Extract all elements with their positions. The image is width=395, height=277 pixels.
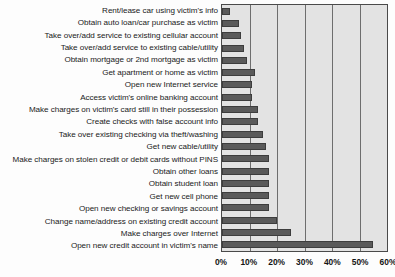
plot-area [221,4,388,252]
bar [222,217,277,224]
category-label: Rent/lease car using victim's info [0,4,221,16]
bar-row [222,226,387,238]
value-tick-label: 10% [240,257,257,267]
bar [222,106,258,113]
value-tick-label: 20% [268,257,285,267]
value-tick-label: 50% [352,257,369,267]
bar [222,155,269,162]
bar [222,94,252,101]
horizontal-bar-chart: Rent/lease car using victim's infoObtain… [0,0,395,277]
bar [222,81,252,88]
bar-row [222,214,387,226]
value-tick-label: 30% [296,257,313,267]
category-label: Take over existing checking via theft/wa… [0,128,221,140]
bar-row [222,189,387,201]
bar-row [222,128,387,140]
category-label: Get apartment or home as victim [0,66,221,78]
bar-row [222,116,387,128]
category-label: Make charges over Internet [0,227,221,239]
bar-row [222,202,387,214]
bar-row [222,79,387,91]
category-label: Get new cell phone [0,190,221,202]
bar [222,57,247,64]
category-label: Access victim's online banking account [0,91,221,103]
category-label: Open new Internet service [0,78,221,90]
bar [222,131,263,138]
category-label: Get new cable/utility [0,140,221,152]
category-label: Open new credit account in victim's name [0,240,221,252]
category-label: Change name/address on existing credit a… [0,215,221,227]
bar-row [222,91,387,103]
value-axis: 0%10%20%30%40%50%60% [0,252,395,277]
bar-row [222,17,387,29]
bar [222,118,258,125]
bar [222,229,291,236]
category-label: Obtain other loans [0,165,221,177]
bar-row [222,140,387,152]
bar [222,69,255,76]
bar-row [222,177,387,189]
bar [222,8,230,15]
bar-row [222,103,387,115]
bar [222,204,269,211]
bar-row [222,54,387,66]
category-label: Take over/add service to existing cellul… [0,29,221,41]
bar [222,20,239,27]
bar [222,241,373,248]
category-label: Create checks with false account info [0,116,221,128]
bar-row [222,5,387,17]
bar [222,192,269,199]
bar [222,168,269,175]
bar-row [222,30,387,42]
bar [222,32,241,39]
category-axis-labels: Rent/lease car using victim's infoObtain… [0,0,221,252]
category-label: Obtain auto loan/car purchase as victim [0,16,221,28]
bar-row [222,42,387,54]
bars-container [222,5,387,251]
category-label: Make charges on stolen credit or debit c… [0,153,221,165]
bar-row [222,66,387,78]
category-label: Obtain mortgage or 2nd mortgage as victi… [0,54,221,66]
bar-row [222,165,387,177]
chart-plot-body: Rent/lease car using victim's infoObtain… [0,0,395,252]
value-tick-label: 0% [215,257,227,267]
bar [222,45,244,52]
value-tick-label: 60% [380,257,395,267]
category-label: Take over/add service to existing cable/… [0,41,221,53]
plot-column [221,0,395,252]
category-label: Obtain student loan [0,178,221,190]
bar-row [222,239,387,251]
category-label: Open new checking or savings account [0,203,221,215]
bar-row [222,153,387,165]
category-label: Make charges on victim's card still in t… [0,103,221,115]
bar [222,143,266,150]
value-tick-label: 40% [324,257,341,267]
bar [222,180,269,187]
